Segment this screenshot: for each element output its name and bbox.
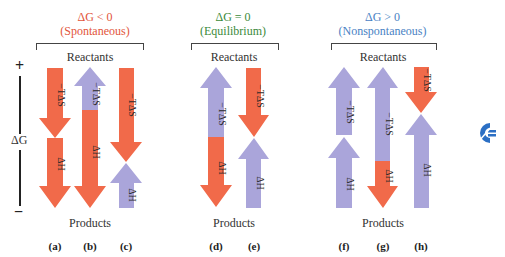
products-label-spontaneous: Products (50, 216, 130, 231)
arrow-b-dh-label: ΔH (91, 145, 102, 159)
arrow-c-tds-label: −TΔS (127, 93, 138, 117)
arrow-a-tds-label: −TΔS (56, 83, 67, 107)
column-g-arrows: −TΔS ΔH (367, 67, 398, 208)
arrow-g-dh-label: ΔH (384, 169, 395, 183)
arrow-a-dh-label: ΔH (56, 157, 67, 171)
arrow-e-tds-label: −TΔS (255, 84, 266, 108)
arrow-e-dh-label: ΔH (255, 176, 266, 190)
column-label-f: (f) (329, 240, 359, 252)
arrow-f-dh-label: ΔH (345, 177, 356, 191)
column-a-arrows: −TΔS ΔH (39, 68, 71, 208)
column-label-e: (e) (239, 240, 269, 252)
column-label-a: (a) (40, 240, 70, 252)
arrow-h-dh-up (405, 114, 437, 208)
arrow-c-dh-label: ΔH (127, 188, 138, 202)
column-label-c: (c) (111, 240, 141, 252)
arrow-f-dh-up (328, 137, 360, 208)
column-label-h: (h) (406, 240, 436, 252)
column-label-g: (g) (368, 240, 398, 252)
arrow-d-dh-label: ΔH (217, 161, 228, 175)
arrow-a-dh-down (39, 138, 71, 208)
column-d-arrows: −TΔS ΔH (200, 67, 232, 207)
column-e-arrows: −TΔS ΔH (238, 68, 269, 208)
arrow-g-tds-label: −TΔS (384, 112, 395, 136)
arrow-g-dh-down (367, 161, 398, 208)
column-label-d: (d) (201, 240, 231, 252)
column-h-arrows: −TΔS ΔH (405, 67, 437, 208)
arrow-f-tds-label: −TΔS (345, 100, 356, 124)
publisher-logo-icon (479, 123, 496, 143)
column-label-b: (b) (75, 240, 105, 252)
column-b-arrows: −TΔS ΔH (74, 67, 106, 208)
arrow-h-tds-label: −TΔS (422, 68, 433, 92)
column-f-arrows: −TΔS ΔH (328, 67, 360, 208)
arrow-d-tds-label: −TΔS (217, 102, 228, 126)
arrow-h-dh-label: ΔH (422, 163, 433, 177)
products-label-equilibrium: Products (194, 216, 274, 231)
column-c-arrows: −TΔS ΔH (110, 68, 142, 208)
arrow-b-dh-down (74, 110, 106, 208)
arrow-b-tds-label: −TΔS (91, 82, 102, 106)
arrow-e-dh-up (238, 138, 269, 208)
products-label-nonspontaneous: Products (343, 216, 423, 231)
